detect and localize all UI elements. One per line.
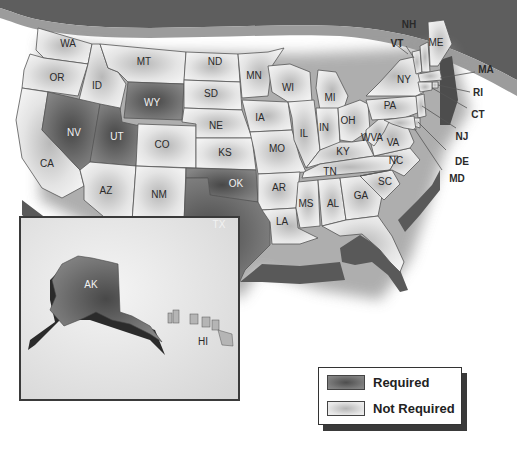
label-SD: SD (204, 88, 218, 99)
legend-item-required: Required (327, 375, 429, 390)
label-UT: UT (110, 131, 123, 142)
legend-swatch-not-required (327, 401, 365, 416)
label-WI: WI (282, 82, 294, 93)
label-VT: VT (391, 38, 404, 49)
label-SC: SC (378, 176, 392, 187)
label-NC: NC (389, 155, 403, 166)
label-OH: OH (341, 115, 356, 126)
label-CA: CA (40, 158, 54, 169)
label-NY: NY (397, 74, 411, 85)
label-NM: NM (151, 189, 167, 200)
state-NJ[interactable] (416, 94, 426, 118)
label-IL: IL (300, 128, 309, 139)
label-MO: MO (269, 143, 285, 154)
label-ND: ND (208, 56, 222, 67)
label-AL: AL (327, 198, 340, 209)
label-ID: ID (92, 80, 102, 91)
label-DE: DE (455, 156, 469, 167)
label-KY: KY (336, 146, 350, 157)
label-MT: MT (137, 56, 151, 67)
label-GA: GA (354, 190, 369, 201)
label-AZ: AZ (100, 185, 113, 196)
label-MS: MS (299, 198, 314, 209)
label-MI: MI (324, 92, 335, 103)
label-CT: CT (471, 109, 484, 120)
label-PA: PA (384, 100, 397, 111)
label-MA: MA (478, 64, 494, 75)
inset-ak-hi (20, 217, 239, 400)
label-LA: LA (276, 216, 289, 227)
state-IA[interactable] (242, 100, 292, 132)
label-NJ: NJ (456, 131, 469, 142)
legend-label-required: Required (373, 375, 429, 390)
label-CO: CO (155, 139, 170, 150)
label-MD: MD (449, 173, 465, 184)
label-KS: KS (218, 147, 232, 158)
label-RI: RI (473, 87, 483, 98)
label-WVA: WVA (361, 132, 383, 143)
legend-label-not-required: Not Required (373, 401, 455, 416)
label-OK: OK (229, 178, 244, 189)
label-IN: IN (319, 122, 329, 133)
label-TX: TX (213, 219, 226, 230)
label-NH: NH (402, 19, 416, 30)
label-TN: TN (323, 166, 336, 177)
legend-swatch-required (327, 375, 365, 390)
label-ME: ME (429, 37, 444, 48)
label-OR: OR (50, 72, 65, 83)
legend-item-not-required: Not Required (327, 401, 455, 416)
label-NV: NV (67, 127, 81, 138)
label-IA: IA (255, 112, 265, 123)
label-HI: HI (198, 336, 208, 347)
label-VA: VA (387, 137, 400, 148)
legend: Required Not Required (318, 367, 462, 425)
label-NE: NE (209, 120, 223, 131)
label-AR: AR (272, 182, 286, 193)
state-RI[interactable] (432, 82, 438, 88)
label-AK: AK (84, 279, 98, 290)
state-CT[interactable] (418, 82, 432, 92)
label-MN: MN (246, 70, 262, 81)
us-map-figure: WA OR CA ID NV UT AZ MT WY CO NM ND SD N… (0, 0, 517, 449)
label-WA: WA (60, 38, 76, 49)
label-WY: WY (144, 97, 160, 108)
